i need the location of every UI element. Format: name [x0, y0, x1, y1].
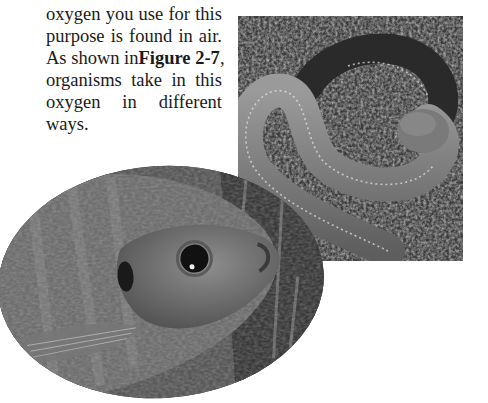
word: this — [195, 3, 222, 25]
worm-clitellum-highlight — [400, 112, 436, 136]
word: take — [131, 69, 162, 91]
word: oxygen — [46, 91, 100, 113]
figure-reference-label: Figure 2-7 — [139, 48, 220, 68]
body-paragraph: oxygenyouuseforthis purposeisfoundinair.… — [46, 0, 222, 135]
word: you — [106, 3, 134, 25]
text-line-3-start: As shown in — [46, 47, 139, 69]
word: for — [168, 3, 190, 25]
text-line-2: purposeisfoundinair. — [46, 25, 222, 47]
word: this — [195, 69, 222, 91]
word: oxygen — [46, 3, 100, 25]
text-line-4: organismstakeinthis — [46, 69, 222, 91]
text-line-6: ways. — [46, 113, 222, 135]
word: purpose — [46, 25, 105, 47]
figure-reference-comma: , — [220, 48, 225, 68]
cut-off-line — [46, 0, 222, 3]
text-line-1: oxygenyouuseforthis — [46, 3, 222, 25]
word: organisms — [46, 69, 122, 91]
text-line-5: oxygenindifferent — [46, 91, 222, 113]
word: in — [178, 25, 192, 47]
word: air. — [199, 25, 222, 47]
word: different — [159, 91, 222, 113]
text-line-3: As shown in Figure 2-7, — [46, 47, 222, 69]
word: in — [122, 91, 136, 113]
figure-reference: Figure 2-7, — [139, 47, 225, 69]
word: found — [129, 25, 172, 47]
word: is — [111, 25, 123, 47]
word: in — [171, 69, 185, 91]
word: use — [139, 3, 164, 25]
